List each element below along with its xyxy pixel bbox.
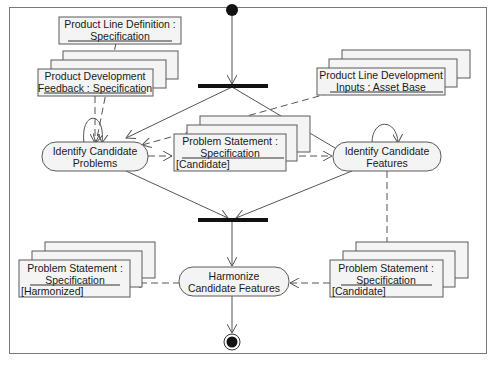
join-bar — [198, 218, 268, 222]
object-name-line1: Problem Statement : — [338, 262, 434, 274]
object-name-line1: Product Development — [45, 70, 146, 82]
activity-label-line2: Candidate Features — [188, 282, 280, 294]
object-name-line1: Product Line Development — [319, 69, 443, 81]
object-type-line2: Feedback : Specification — [38, 82, 153, 94]
activity-label-line1: Identify Candidate — [53, 145, 138, 157]
object-problem-statement-candidate-middle[interactable]: Problem Statement : Specification [Candi… — [174, 116, 310, 171]
object-problem-statement-harmonized[interactable]: Problem Statement : Specification [Harmo… — [19, 242, 155, 297]
object-product-line-development-inputs[interactable]: Product Line Development Inputs : Asset … — [317, 50, 470, 95]
fork-bar — [198, 84, 268, 88]
initial-node — [226, 4, 238, 16]
object-state: [Candidate] — [332, 285, 386, 297]
object-problem-statement-candidate-right[interactable]: Problem Statement : Specification [Candi… — [330, 242, 468, 297]
activity-identify-candidate-problems[interactable]: Identify Candidate Problems — [42, 142, 148, 171]
activity-harmonize-candidate-features[interactable]: Harmonize Candidate Features — [179, 267, 289, 296]
object-type-line2: Specification — [90, 30, 150, 42]
final-node — [224, 334, 240, 350]
object-product-line-definition[interactable]: Product Line Definition : Specification — [59, 17, 181, 44]
object-type-line2: Inputs : Asset Base — [336, 81, 426, 93]
object-name-line1: Problem Statement : — [182, 135, 278, 147]
activity-diagram: Product Line Definition : Specification … — [0, 0, 496, 368]
activity-label-line2: Problems — [73, 157, 117, 169]
object-name-line1: Problem Statement : — [27, 262, 123, 274]
object-state: [Candidate] — [176, 158, 230, 170]
object-name-line1: Product Line Definition : — [64, 18, 175, 30]
activity-identify-candidate-features[interactable]: Identify Candidate Features — [333, 142, 441, 171]
activity-label-line1: Identify Candidate — [345, 145, 430, 157]
activity-label-line2: Features — [366, 157, 407, 169]
object-product-development-feedback[interactable]: Product Development Feedback : Specifica… — [38, 51, 178, 96]
object-state: [Harmonized] — [21, 285, 84, 297]
activity-label-line1: Harmonize — [209, 270, 260, 282]
